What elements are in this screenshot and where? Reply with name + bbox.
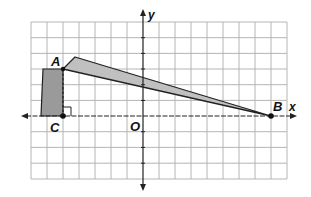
label-a: A	[50, 54, 60, 69]
y-axis-down-arrow-icon	[140, 184, 146, 191]
label-y-axis: y	[147, 8, 156, 22]
label-origin: O	[130, 119, 140, 134]
label-x-axis: x	[288, 100, 297, 114]
long-beam	[63, 57, 271, 116]
point-b	[268, 113, 274, 119]
point-a	[61, 67, 65, 71]
label-b: B	[273, 99, 282, 114]
point-c	[60, 113, 66, 119]
vertical-bar	[41, 69, 63, 116]
x-axis-left-arrow-icon	[21, 113, 28, 119]
grid	[31, 22, 287, 179]
y-axis-up-arrow-icon	[140, 9, 146, 16]
coordinate-diagram: A B C O x y	[0, 0, 311, 197]
label-c: C	[50, 120, 60, 135]
